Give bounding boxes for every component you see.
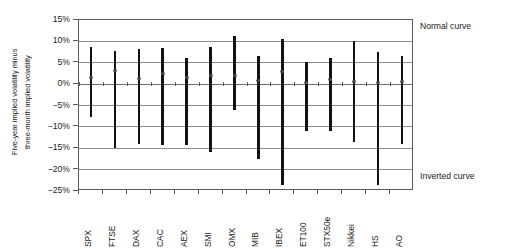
x-axis-label-et100: ET100 bbox=[298, 193, 312, 247]
x-axis-minor-tick bbox=[199, 82, 200, 86]
mean-marker bbox=[400, 80, 404, 83]
range-bar bbox=[209, 47, 212, 153]
range-bar bbox=[329, 58, 332, 131]
x-axis-tick bbox=[341, 190, 342, 194]
y-axis-tick-label: −10% bbox=[26, 121, 70, 131]
x-axis-label-dax: DAX bbox=[131, 193, 145, 247]
gridline bbox=[79, 169, 412, 170]
x-axis-tick bbox=[317, 190, 318, 194]
x-axis-minor-tick bbox=[175, 82, 176, 86]
x-axis-tick bbox=[389, 190, 390, 194]
gridline bbox=[79, 126, 412, 127]
mean-marker bbox=[89, 76, 93, 79]
gridline bbox=[79, 62, 412, 63]
x-axis-tick bbox=[293, 190, 294, 194]
y-axis-tick-label: −20% bbox=[26, 164, 70, 174]
x-axis-minor-tick bbox=[390, 82, 391, 86]
x-axis-minor-tick bbox=[79, 82, 80, 86]
plot-area bbox=[78, 19, 413, 190]
mean-marker bbox=[328, 78, 332, 81]
x-axis-minor-tick bbox=[223, 82, 224, 86]
mean-marker bbox=[161, 72, 165, 75]
chart-root: Five-year implied volatility minus three… bbox=[0, 0, 505, 249]
x-axis-minor-tick bbox=[247, 82, 248, 86]
x-axis-label-nikkei: Nikkei bbox=[346, 193, 360, 247]
x-axis-label-mib: MIB bbox=[250, 193, 264, 247]
x-axis-minor-tick bbox=[151, 82, 152, 86]
x-axis-label-omx: OMX bbox=[227, 193, 241, 247]
x-axis-label-ao: AO bbox=[394, 193, 408, 247]
x-axis-tick bbox=[78, 190, 79, 194]
x-axis-tick bbox=[198, 190, 199, 194]
y-axis-tick-label: 15% bbox=[26, 14, 70, 24]
range-bar bbox=[281, 39, 284, 184]
x-axis-tick bbox=[246, 190, 247, 194]
x-axis-label-aex: AEX bbox=[179, 193, 193, 247]
x-axis-tick bbox=[269, 190, 270, 194]
x-axis-tick bbox=[150, 190, 151, 194]
range-bar bbox=[257, 56, 260, 159]
x-axis-tick bbox=[102, 190, 103, 194]
x-axis-minor-tick bbox=[103, 82, 104, 86]
annotation-inverted-curve: Inverted curve bbox=[420, 171, 474, 181]
y-axis-tick-label: −25% bbox=[26, 185, 70, 195]
range-bar bbox=[305, 62, 308, 131]
x-axis-label-spx: SPX bbox=[83, 193, 97, 247]
x-axis-label-hs: HS bbox=[370, 193, 384, 247]
y-axis-title-line-1: Five-year implied volatility minus bbox=[8, 0, 22, 210]
mean-marker bbox=[209, 74, 213, 77]
x-axis-label-ibex: IBEX bbox=[274, 193, 288, 247]
x-axis-tick bbox=[126, 190, 127, 194]
range-bar bbox=[161, 48, 164, 145]
x-axis-minor-tick bbox=[270, 82, 271, 86]
y-axis-tick-label: 0% bbox=[26, 78, 70, 88]
x-axis-minor-tick bbox=[127, 82, 128, 86]
range-bar bbox=[401, 56, 404, 144]
x-axis-minor-tick bbox=[318, 82, 319, 86]
x-axis-tick bbox=[222, 190, 223, 194]
y-axis-tick-label: 5% bbox=[26, 57, 70, 67]
x-axis-label-stx50e: STX50e bbox=[322, 193, 336, 247]
x-axis-label-ftse: FTSE bbox=[107, 193, 121, 247]
gridline bbox=[79, 148, 412, 149]
gridline bbox=[79, 41, 412, 42]
x-axis-minor-tick bbox=[366, 82, 367, 86]
range-bar bbox=[377, 52, 380, 185]
mean-marker bbox=[113, 69, 117, 72]
x-axis-tick bbox=[365, 190, 366, 194]
x-axis-minor-tick bbox=[342, 82, 343, 86]
mean-marker bbox=[256, 79, 260, 82]
y-axis-tick-label: −5% bbox=[26, 100, 70, 110]
y-axis-tick-label: 10% bbox=[26, 35, 70, 45]
zero-line bbox=[79, 84, 412, 85]
x-axis-minor-tick bbox=[294, 82, 295, 86]
x-axis-tick bbox=[174, 190, 175, 194]
range-bar bbox=[185, 58, 188, 145]
range-bar bbox=[353, 41, 356, 142]
annotation-normal-curve: Normal curve bbox=[420, 21, 471, 31]
gridline bbox=[79, 105, 412, 106]
x-axis-label-cac: CAC bbox=[155, 193, 169, 247]
y-axis-tick-label: −15% bbox=[26, 142, 70, 152]
mean-marker bbox=[280, 70, 284, 73]
range-bar bbox=[90, 47, 93, 117]
mean-marker bbox=[185, 76, 189, 79]
mean-marker bbox=[233, 74, 237, 77]
x-axis-label-smi: SMI bbox=[203, 193, 217, 247]
range-bar bbox=[114, 51, 117, 148]
range-bar bbox=[138, 49, 141, 143]
